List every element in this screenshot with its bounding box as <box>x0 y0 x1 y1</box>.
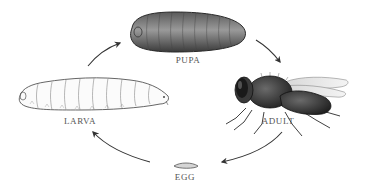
stage-label-adult: ADULT <box>258 116 298 126</box>
stage-label-larva: LARVA <box>60 116 100 126</box>
arrow-larva-to-pupa <box>88 43 120 66</box>
pupa-icon <box>131 12 246 52</box>
stage-label-egg: EGG <box>170 172 200 182</box>
arrow-adult-to-egg <box>222 132 282 162</box>
adult-fly-icon <box>226 72 348 136</box>
stage-label-pupa: PUPA <box>173 55 203 65</box>
egg-icon <box>174 163 198 168</box>
larva-icon <box>19 78 168 110</box>
arrow-pupa-to-adult <box>256 40 280 62</box>
life-cycle-diagram: PUPA ADULT EGG LARVA <box>0 0 368 190</box>
arrow-egg-to-larva <box>93 132 150 162</box>
